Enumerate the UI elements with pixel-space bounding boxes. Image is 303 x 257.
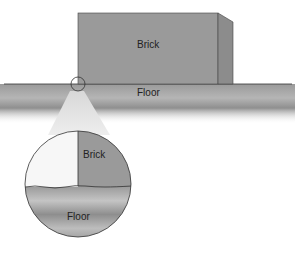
brick-side <box>218 13 233 84</box>
zoom-circle <box>20 130 148 242</box>
floor-label: Floor <box>137 87 160 98</box>
brick-label: Brick <box>137 39 159 50</box>
zoom-floor-label: Floor <box>67 211 90 222</box>
brick-floor-diagram: Brick Floor Brick Floor <box>0 0 303 257</box>
zoom-brick-label: Brick <box>83 149 105 160</box>
